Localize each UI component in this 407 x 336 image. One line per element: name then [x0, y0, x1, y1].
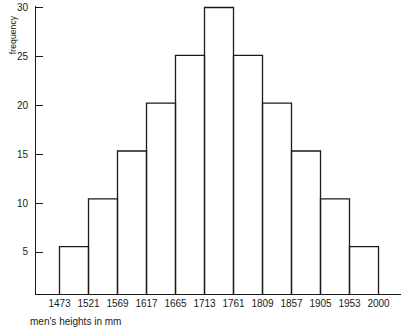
- histogram-chart: frequency 30 25 20 15 10 5 1473 1521 156…: [0, 0, 407, 336]
- y-axis-ticks: [36, 8, 44, 253]
- histogram-bar: [176, 55, 205, 294]
- histogram-bar: [321, 199, 350, 295]
- histogram-bar: [263, 103, 292, 294]
- histogram-bar: [234, 55, 263, 294]
- histogram-bar: [118, 151, 147, 295]
- histogram-bar: [292, 151, 321, 295]
- plot-area: [0, 0, 407, 336]
- x-tick-label-2000: 2000: [362, 298, 396, 309]
- histogram-bars: [60, 8, 379, 295]
- histogram-bar: [205, 8, 234, 295]
- histogram-bar: [60, 247, 89, 295]
- x-axis-title: men's heights in mm: [30, 316, 121, 327]
- histogram-bar: [350, 247, 379, 295]
- histogram-bar: [89, 199, 118, 295]
- histogram-bar: [147, 103, 176, 294]
